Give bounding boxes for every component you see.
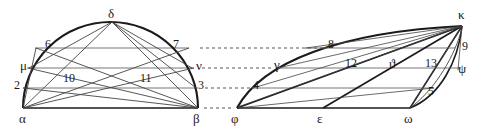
- ray-alpha-to-7: [23, 48, 189, 108]
- label-phi: φ: [231, 112, 239, 125]
- label-epsilon: ε: [317, 112, 322, 125]
- figure-canvas: [0, 0, 486, 135]
- ray-delta-alpha: [23, 22, 112, 108]
- label-13: 13: [425, 57, 437, 69]
- left-semicircle-group: [23, 22, 198, 108]
- label-6: 6: [45, 38, 51, 50]
- label-10: 10: [63, 72, 75, 84]
- label-7: 7: [173, 38, 179, 50]
- label-12: 12: [345, 57, 357, 69]
- geometric-figure: δ 6 7 μ ν 10 11 2 3 α β κ 8 9 γ 12 ϑ 13 …: [0, 0, 486, 135]
- ray-alpha-to-6: [23, 48, 36, 108]
- label-5: 5: [428, 85, 434, 97]
- label-nu: ν: [196, 59, 202, 72]
- label-beta: β: [193, 112, 200, 125]
- label-11: 11: [140, 72, 152, 84]
- label-delta: δ: [108, 7, 114, 20]
- label-8: 8: [328, 38, 334, 50]
- label-alpha: α: [19, 112, 26, 125]
- label-2: 2: [14, 79, 20, 91]
- label-kappa: κ: [458, 8, 465, 21]
- label-mu: μ: [20, 59, 27, 72]
- label-gamma: γ: [274, 58, 280, 71]
- label-omega: ω: [404, 112, 413, 125]
- ray-delta-level2: [112, 22, 196, 88]
- semicircle-arc: [23, 22, 198, 108]
- label-psi: ψ: [458, 62, 466, 75]
- label-4: 4: [253, 79, 259, 91]
- label-theta: ϑ: [389, 57, 395, 70]
- label-9: 9: [462, 40, 468, 52]
- label-3: 3: [198, 79, 204, 91]
